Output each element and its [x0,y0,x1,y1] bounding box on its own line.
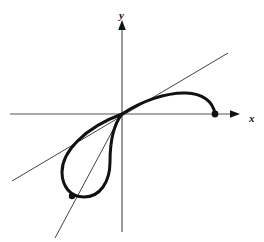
x-axis-arrowhead-icon [230,110,240,118]
y-axis-label: y [119,10,124,21]
curve-loop-lobe [62,114,122,197]
x-axis-label: x [249,113,255,124]
right-endpoint-marker [212,111,219,118]
y-axis-arrowhead-icon [118,20,126,30]
curve-right-arc [122,93,215,114]
math-figure: x y [0,0,264,242]
loop-bottom-point-marker [69,193,75,199]
plot-canvas [0,0,264,242]
